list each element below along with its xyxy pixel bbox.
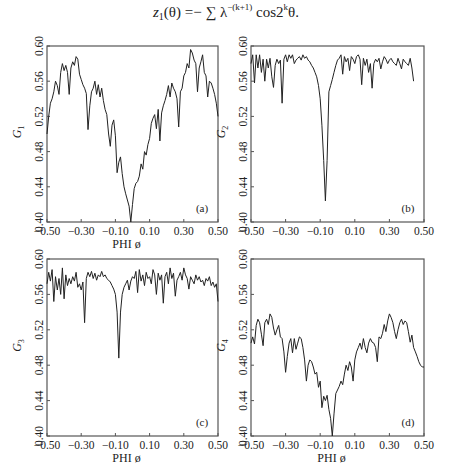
plot-frame: [251, 46, 424, 222]
x-tick-label: 0.50: [414, 225, 434, 237]
x-tick-label: 0.30: [379, 439, 399, 451]
y-tick-label: 0.48: [33, 355, 45, 375]
chart-panel-b: −0.50−0.30−0.100.100.300.500.400.440.480…: [214, 36, 434, 237]
figure-canvas: −0.50−0.30−0.100.100.300.500.400.440.480…: [0, 0, 452, 466]
x-tick-label: 0.10: [345, 439, 365, 451]
y-tick-label: 0.48: [237, 141, 249, 161]
x-tick-label: 0.10: [345, 225, 365, 237]
data-line: [251, 314, 424, 436]
y-tick-label: 0.60: [237, 36, 249, 56]
data-line: [251, 55, 414, 201]
x-tick-label: 0.30: [174, 439, 194, 451]
x-tick-label: 0.10: [140, 439, 160, 451]
y-tick-label: 0.40: [33, 212, 45, 232]
x-tick-label: −0.10: [102, 439, 129, 451]
x-axis-label: PHI ø: [112, 237, 140, 251]
x-tick-label: −0.10: [307, 439, 334, 451]
y-axis-label: G2: [214, 126, 230, 139]
x-axis-label: PHI ø: [112, 451, 140, 465]
y-tick-label: 0.52: [237, 319, 249, 339]
plot-frame: [47, 259, 218, 436]
y-tick-label: 0.56: [237, 284, 249, 304]
chart-panel-d: −0.50−0.30−0.100.100.300.500.400.440.480…: [214, 249, 434, 465]
x-tick-label: 0.30: [174, 225, 194, 237]
x-tick-label: −0.30: [272, 439, 299, 451]
y-tick-label: 0.52: [33, 106, 45, 126]
chart-panel-a: −0.50−0.30−0.100.100.300.500.400.440.480…: [10, 36, 228, 251]
x-tick-label: −0.30: [68, 439, 95, 451]
y-tick-label: 0.60: [237, 249, 249, 269]
y-tick-label: 0.60: [33, 36, 45, 56]
x-axis-label: PHI ø: [317, 451, 345, 465]
y-tick-label: 0.44: [33, 176, 45, 196]
plot-frame: [47, 46, 218, 222]
x-tick-label: −0.10: [307, 225, 334, 237]
x-tick-label: 0.50: [414, 439, 434, 451]
y-tick-label: 0.48: [237, 355, 249, 375]
y-tick-label: 0.40: [237, 426, 249, 446]
x-tick-label: −0.30: [68, 225, 95, 237]
y-tick-label: 0.52: [33, 319, 45, 339]
y-tick-label: 0.56: [33, 71, 45, 91]
y-tick-label: 0.56: [237, 71, 249, 91]
x-tick-label: 0.30: [379, 225, 399, 237]
x-tick-label: 0.50: [208, 439, 228, 451]
y-tick-label: 0.44: [33, 390, 45, 410]
y-tick-label: 0.56: [33, 284, 45, 304]
x-tick-label: −0.30: [272, 225, 299, 237]
y-axis-label: G4: [214, 339, 230, 352]
y-tick-label: 0.60: [33, 249, 45, 269]
y-tick-label: 0.52: [237, 106, 249, 126]
y-tick-label: 0.40: [33, 426, 45, 446]
panel-label: (c): [196, 416, 209, 429]
x-tick-label: 0.10: [140, 225, 160, 237]
y-tick-label: 0.44: [237, 390, 249, 410]
panel-label: (b): [402, 202, 415, 215]
y-axis-label: G1: [10, 126, 26, 139]
x-tick-label: 0.50: [208, 225, 228, 237]
y-tick-label: 0.48: [33, 141, 45, 161]
y-tick-label: 0.44: [237, 176, 249, 196]
x-tick-label: −0.10: [102, 225, 129, 237]
y-tick-label: 0.40: [237, 212, 249, 232]
y-axis-label: G3: [10, 339, 26, 352]
plot-frame: [251, 259, 424, 436]
chart-panel-c: −0.50−0.30−0.100.100.300.500.400.440.480…: [10, 249, 228, 465]
panel-label: (d): [402, 416, 415, 429]
data-line: [47, 50, 218, 223]
panel-label: (a): [196, 202, 209, 215]
data-line: [47, 268, 218, 358]
